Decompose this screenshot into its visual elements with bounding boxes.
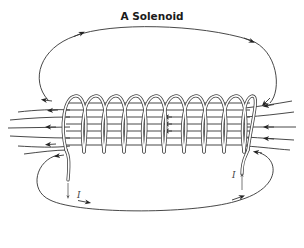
field-loop-bottom [37, 152, 273, 211]
field-loop-top [39, 27, 276, 104]
current-label-left: I [76, 190, 81, 200]
current-label-right: I [231, 170, 236, 180]
solenoid-diagram: I I [0, 0, 304, 248]
current-indicator-right: I [231, 170, 242, 190]
current-indicator-left: I [68, 183, 81, 200]
